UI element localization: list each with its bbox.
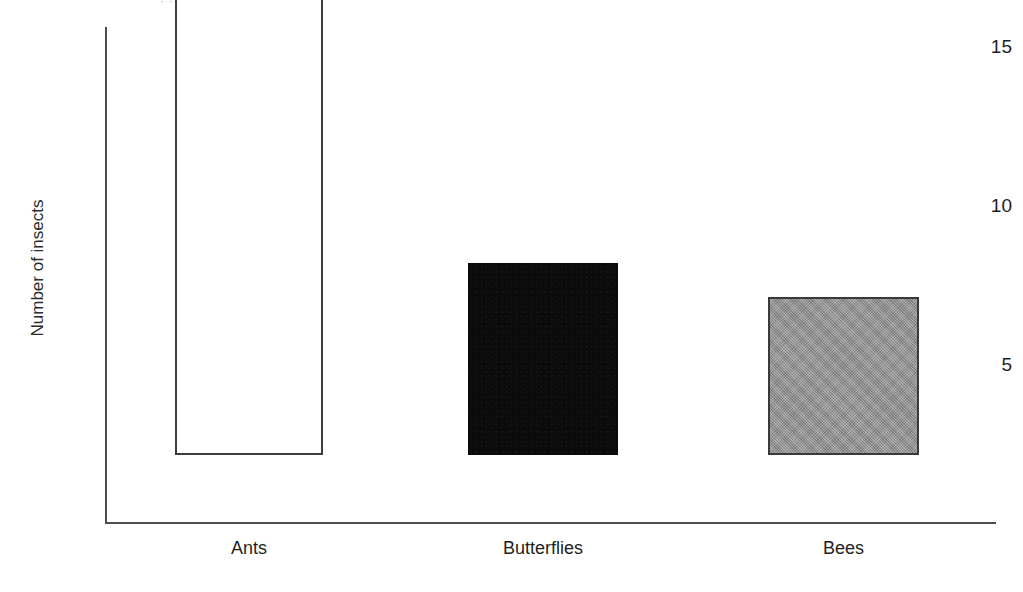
bar-bees bbox=[768, 297, 919, 455]
x-tick-label-ants: Ants bbox=[175, 539, 323, 557]
bar-ants bbox=[175, 0, 323, 455]
bar-chart-figure: · · · Number of insects 15 10 5 Ants But… bbox=[0, 0, 1023, 592]
x-tick-label-bees: Bees bbox=[768, 539, 919, 557]
plot-area bbox=[0, 0, 1023, 524]
bar-butterflies bbox=[468, 263, 618, 455]
x-tick-label-butterflies: Butterflies bbox=[468, 539, 618, 557]
